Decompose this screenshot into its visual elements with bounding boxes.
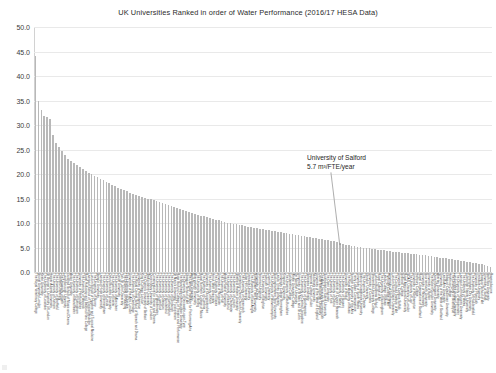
bar [425,255,427,272]
bar [38,101,40,272]
bar [162,203,164,272]
bar [114,186,116,272]
bar [286,233,288,272]
bar [239,225,241,272]
footer-cutoff-strip [0,364,496,373]
bar [126,191,128,272]
bar [191,213,193,272]
bar [342,244,344,272]
bar [120,189,122,272]
bar [218,220,220,272]
bar [363,248,365,273]
bar [129,193,131,272]
bar [419,255,421,272]
bar [434,257,436,272]
bar [490,267,492,272]
bar [233,224,235,273]
bar [377,250,379,272]
bar [94,176,96,272]
bar [475,263,477,272]
bar [259,229,261,272]
bar [315,238,317,272]
page-title: UK Universities Ranked in order of Water… [0,8,496,17]
y-axis-tick-label: 20.0 [0,171,30,178]
bar [215,220,217,272]
bar [150,199,152,272]
bar [348,245,350,272]
bar [64,155,66,272]
bar [144,198,146,272]
bar [442,258,444,272]
bar [268,230,270,272]
bar [262,229,264,272]
bar [413,254,415,272]
bar [309,237,311,272]
bar [280,232,282,272]
bar [85,171,87,272]
y-axis-tick-label: 25.0 [0,146,30,153]
bar [111,185,113,272]
bar [274,231,276,272]
bar [41,110,43,272]
bar [389,251,391,272]
bar [301,236,303,272]
bar [49,119,51,272]
bar [103,180,105,272]
annotation-line-2: 5.7 m³/FTE/year [307,163,366,172]
bar [79,167,81,272]
bar [371,249,373,272]
bar [46,117,48,272]
bar [436,257,438,272]
bar [457,260,459,272]
bar [153,200,155,272]
bar [108,183,110,272]
x-axis-labels: The Royal Veterinary CollegeBrunel Unive… [34,273,492,371]
bar [472,263,474,272]
bar [176,208,178,272]
bar [327,240,329,272]
water-performance-bar-chart: UK Universities Ranked in order of Water… [0,0,496,373]
bar [247,227,249,272]
bar [469,262,471,272]
bar [333,241,335,272]
bar [209,218,211,272]
bar [392,252,394,272]
bar [277,232,279,272]
bar [298,235,300,272]
bar [165,204,167,272]
y-axis-tick-label: 40.0 [0,73,30,80]
bar [236,224,238,272]
bar [123,190,125,272]
bar [451,259,453,272]
bar [321,239,323,272]
bar [221,221,223,272]
bar [61,151,63,272]
bar [106,182,108,272]
bar [58,147,60,272]
bar [230,223,232,272]
bar [141,197,143,272]
bar [55,143,57,272]
bar-series [34,27,492,272]
bar [147,199,149,273]
bar [398,252,400,272]
x-axis-label: Ravensbourne [489,273,492,293]
bar [97,177,99,272]
bar [171,206,173,272]
bar [460,261,462,272]
y-axis-tick-label: 5.0 [0,244,30,251]
bar [70,161,72,272]
bar [448,259,450,272]
bar [318,239,320,272]
salford-annotation: University of Salford 5.7 m³/FTE/year [307,154,366,171]
bar [76,165,78,272]
bar [265,230,267,272]
bar [283,233,285,272]
y-axis-tick-label: 15.0 [0,195,30,202]
bar [197,215,199,272]
bar [295,235,297,272]
bar [466,262,468,272]
bar [182,210,184,272]
bar [138,196,140,272]
bar [241,225,243,272]
